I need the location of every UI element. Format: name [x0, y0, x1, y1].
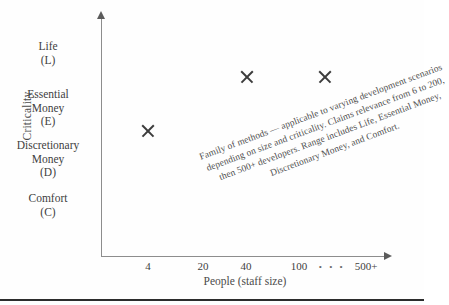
y-category-discretionary-name: Discretionary — [0, 139, 96, 153]
y-axis-line — [101, 18, 102, 257]
y-category-essential-money: Essential Money (E) — [0, 88, 96, 129]
data-point-marker — [239, 69, 255, 85]
x-tick-label-40: 40 — [222, 260, 270, 272]
x-tick-label-500plus: 500+ — [342, 260, 390, 272]
x-axis-title: People (staff size) — [125, 275, 365, 287]
y-category-discretionary-code: (D) — [0, 166, 96, 180]
y-category-comfort-name: Comfort — [0, 192, 96, 206]
y-category-discretionary-name2: Money — [0, 153, 96, 167]
y-category-essential-name: Essential — [0, 88, 96, 102]
y-category-life-code: (L) — [0, 54, 96, 68]
data-point-marker — [317, 69, 333, 85]
x-axis-arrowhead-icon — [384, 252, 392, 260]
y-axis-arrowhead-icon — [97, 11, 105, 19]
data-point-marker — [140, 123, 156, 139]
y-category-essential-code: (E) — [0, 115, 96, 129]
x-tick-label-4: 4 — [124, 260, 172, 272]
y-category-discretionary-money: Discretionary Money (D) — [0, 139, 96, 180]
y-category-comfort: Comfort (C) — [0, 192, 96, 219]
y-category-life: Life (L) — [0, 40, 96, 67]
bottom-divider — [0, 299, 424, 301]
y-category-essential-name2: Money — [0, 102, 96, 116]
y-category-comfort-code: (C) — [0, 206, 96, 220]
x-tick-label-20: 20 — [179, 260, 227, 272]
y-category-life-name: Life — [0, 40, 96, 54]
x-axis-line — [101, 256, 386, 257]
